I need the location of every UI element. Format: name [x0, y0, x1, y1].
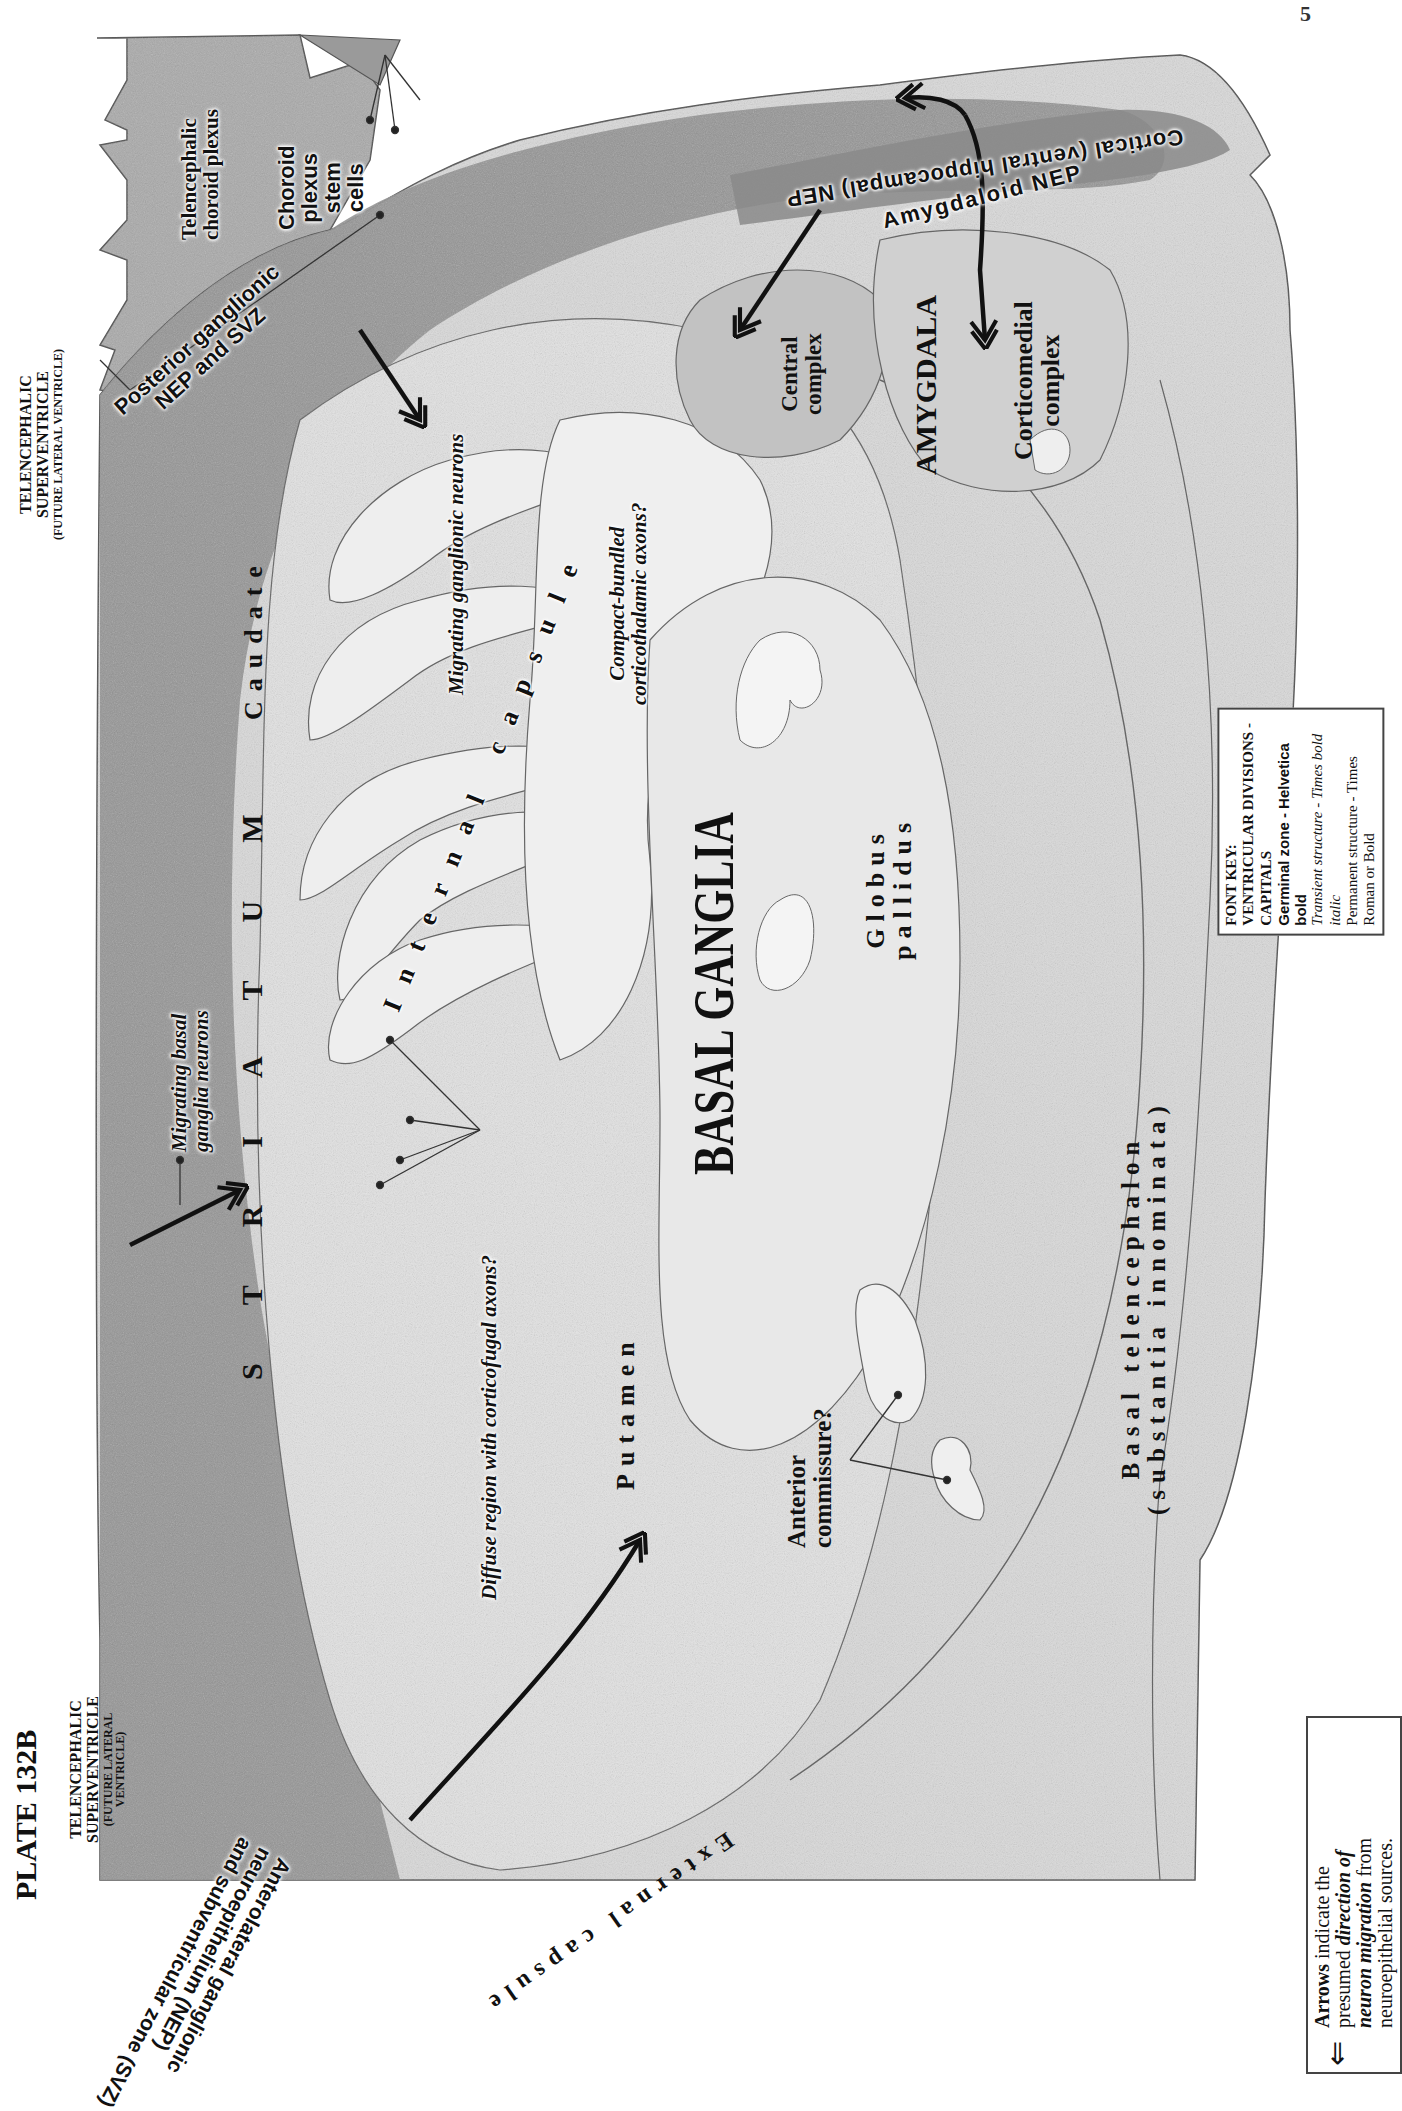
caudate-label: Caudate: [240, 556, 267, 720]
amygdala-label: AMYGDALA: [910, 295, 942, 475]
striatum-label: STRIATUM: [236, 756, 268, 1380]
basal-ganglia-label: BASAL GANGLIA: [685, 812, 744, 1175]
compact-bundled-axons-label: Compact-bundled corticothalamic axons?: [606, 503, 650, 705]
putamen-label: Putamen: [612, 1334, 639, 1490]
top-ventricle-line3: (FUTURE LATERAL VENTRICLE): [52, 349, 65, 540]
choroid-plexus-stem-cells-label: Choroid plexus stem cells: [275, 146, 367, 230]
font-key-line-roman: Permanent structure - Times Roman or Bol…: [1344, 718, 1379, 926]
corticomedial-complex-label: Corticomedial complex: [1010, 301, 1065, 460]
anterior-commissure-label: Anterior commissure?: [784, 1408, 837, 1548]
font-key-box: FONT KEY: VENTRICULAR DIVISIONS - CAPITA…: [1217, 708, 1384, 936]
page-number: 5: [1300, 2, 1311, 25]
central-complex-label: Central complex: [778, 333, 826, 415]
top-ventricle-label: TELENCEPHALIC SUPERVENTRICLE (FUTURE LAT…: [18, 349, 64, 540]
diffuse-region-axons-label: Diffuse region with corticofugal axons?: [478, 1255, 500, 1600]
telencephalic-choroid-plexus-label: Telencephalic choroid plexus: [178, 109, 222, 240]
migrating-ganglionic-neurons-label: Migrating ganglionic neurons: [445, 434, 467, 695]
arrow-legend-bold: Arrows: [1311, 1964, 1333, 2028]
arrow-legend-box: ⇐ Arrows indicate the presumed direction…: [1306, 1716, 1402, 2074]
font-key-title: FONT KEY:: [1223, 718, 1240, 926]
plate-title: PLATE 132B: [10, 1730, 42, 1900]
left-ventricle-label: TELENCEPHALIC SUPERVENTRICLE (FUTURE LAT…: [68, 1696, 127, 1843]
migrating-basal-ganglia-neurons-label: Migrating basal ganglia neurons: [168, 1010, 212, 1152]
font-key-line-caps: VENTRICULAR DIVISIONS - CAPITALS: [1241, 718, 1276, 926]
double-chevron-arrow-icon: ⇐: [1322, 2041, 1352, 2066]
font-key-line-helv: Germinal zone - Helvetica bold: [1275, 718, 1310, 926]
top-ventricle-line1: TELENCEPHALIC: [18, 349, 35, 540]
left-ventricle-line2: SUPERVENTRICLE: [85, 1696, 102, 1843]
left-ventricle-line1: TELENCEPHALIC: [68, 1696, 85, 1843]
basal-telencephalon-label: Basal telencephalon (substantia innomina…: [1118, 1099, 1171, 1515]
left-ventricle-line4: VENTRICLE): [114, 1696, 127, 1843]
top-ventricle-line2: SUPERVENTRICLE: [35, 349, 52, 540]
globus-pallidus-label: Globus pallidus: [862, 816, 917, 960]
font-key-line-italic: Transient structure - Times bold italic: [1310, 718, 1345, 926]
